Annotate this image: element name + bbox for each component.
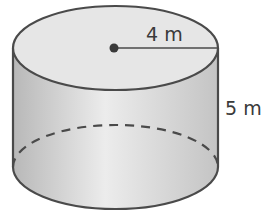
cylinder-diagram: 4 m 5 m bbox=[0, 0, 268, 220]
radius-label: 4 m bbox=[146, 23, 183, 45]
center-point bbox=[110, 44, 119, 53]
height-label: 5 m bbox=[225, 97, 262, 119]
